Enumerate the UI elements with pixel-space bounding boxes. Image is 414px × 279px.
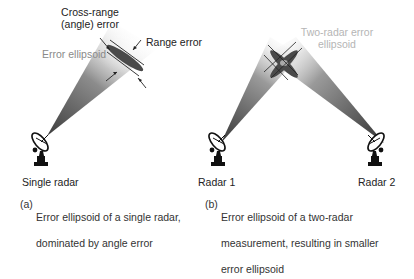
caption-b-tag: (b) <box>205 198 218 211</box>
cross-range-line-2: (angle) error <box>54 18 126 30</box>
two-radar-line-2: ellipsoid <box>297 38 377 50</box>
radar-1-label: Radar 1 <box>198 176 235 188</box>
panel-a <box>29 22 160 166</box>
error-ellipsoid-label: Error ellipsoid <box>42 48 106 60</box>
caption-b-line-1: Error ellipsoid of a two-radar <box>221 211 405 224</box>
caption-a: (a) Error ellipsoid of a single radar, d… <box>20 198 200 263</box>
two-radar-error-ellipsoid-label: Two-radar error ellipsoid <box>297 26 377 50</box>
cross-range-error-label: Cross-range (angle) error <box>54 6 126 30</box>
two-radar-line-1: Two-radar error <box>297 26 377 38</box>
caption-b-line-2: measurement, resulting in smaller <box>221 237 405 250</box>
range-error-label: Range error <box>146 36 202 48</box>
radar-dish-icon <box>206 130 228 166</box>
caption-a-line-2: dominated by angle error <box>36 237 200 250</box>
caption-a-line-1: Error ellipsoid of a single radar, <box>36 211 200 224</box>
cross-range-line-1: Cross-range <box>54 6 126 18</box>
caption-b: (b) Error ellipsoid of a two-radar measu… <box>205 198 405 279</box>
radar-label-single: Single radar <box>22 176 79 188</box>
caption-b-line-3: error ellipsoid <box>221 263 405 276</box>
radar-2-label: Radar 2 <box>358 176 395 188</box>
caption-a-tag: (a) <box>20 198 33 211</box>
radar-dish-icon <box>29 130 51 166</box>
radar-dish-icon <box>365 130 387 166</box>
